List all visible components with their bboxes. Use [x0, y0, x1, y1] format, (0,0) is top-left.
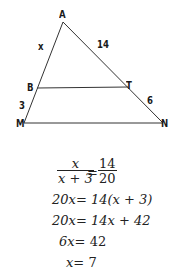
step-3-rhs: 42	[90, 234, 107, 249]
vertex-label-a: A	[59, 9, 66, 20]
step-4-rhs: 7	[88, 255, 96, 270]
equals-sign: =	[87, 166, 98, 179]
vertex-label-n: N	[161, 118, 168, 129]
vertex-label-t: T	[126, 80, 132, 91]
triangle-figure	[0, 0, 173, 135]
step-4: x= 7	[66, 256, 97, 269]
side-am	[24, 22, 63, 123]
step-2-equals: =	[76, 213, 87, 228]
segment-label-tn: 6	[147, 95, 153, 106]
fraction-right-numerator: 14	[98, 157, 117, 170]
step-1-rhs: 14(x + 3)	[91, 192, 152, 207]
step-1: 20x= 14(x + 3)	[52, 193, 152, 206]
segment-bt	[37, 87, 128, 88]
side-an	[63, 22, 163, 123]
triangle-diagram: A x 14 B T 3 6 M N	[0, 0, 173, 135]
step-1-lhs: 20x	[52, 192, 76, 207]
step-2-rhs: 14x + 42	[91, 213, 151, 228]
segment-label-at: 14	[97, 39, 109, 50]
step-3: 6x= 42	[59, 235, 106, 248]
vertex-label-m: M	[16, 118, 25, 129]
segment-label-bm: 3	[19, 100, 25, 111]
step-4-equals: =	[73, 255, 84, 270]
step-2-lhs: 20x	[52, 213, 76, 228]
step-1-equals: =	[76, 192, 87, 207]
step-3-equals: =	[75, 234, 86, 249]
step-2: 20x= 14x + 42	[52, 214, 151, 227]
step-3-lhs: 6x	[59, 234, 75, 249]
fraction-right: 14 20	[98, 157, 117, 185]
fraction-right-denominator: 20	[98, 170, 117, 185]
vertex-label-b: B	[27, 82, 34, 93]
segment-label-ab: x	[38, 41, 44, 52]
